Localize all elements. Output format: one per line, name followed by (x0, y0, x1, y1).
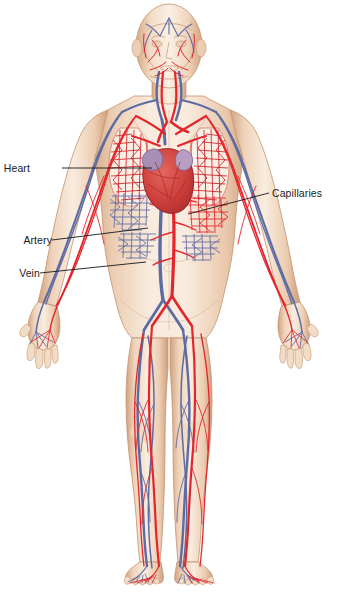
circulatory-system-figure: Heart Capillaries Artery Vein (0, 0, 338, 592)
label-heart: Heart (4, 162, 30, 174)
head-outline (136, 4, 202, 88)
label-artery: Artery (23, 234, 52, 246)
label-capillaries: Capillaries (272, 187, 322, 199)
anatomy-svg: Heart Capillaries Artery Vein (0, 0, 338, 592)
ear-right (196, 39, 206, 57)
heart-left-atrium (142, 149, 162, 170)
ear-left (132, 39, 142, 57)
label-vein: Vein (19, 267, 40, 279)
